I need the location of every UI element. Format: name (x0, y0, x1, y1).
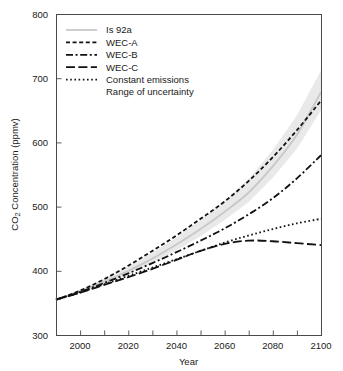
uncertainty-band-group (56, 71, 321, 301)
y-tick-label: 500 (32, 201, 48, 212)
legend-label-constant-emissions: Constant emissions (106, 74, 189, 85)
co2-concentration-chart: 3004005006007008002000202020402060208021… (0, 0, 343, 371)
uncertainty-band (56, 71, 321, 301)
y-tick-label: 600 (32, 137, 48, 148)
y-axis-title: CO2 Concentration (ppmv) (9, 118, 22, 230)
y-tick-label: 800 (32, 9, 48, 20)
chart-svg: 3004005006007008002000202020402060208021… (0, 0, 343, 371)
series-line-wec-c (56, 240, 321, 299)
legend-label-wec-a: WEC-A (106, 37, 138, 48)
x-axis-title: Year (179, 356, 198, 367)
legend: Is 92aWEC-AWEC-BWEC-CConstant emissionsR… (66, 24, 194, 97)
x-tick-label: 2060 (214, 340, 235, 351)
legend-label-is-92a: Is 92a (106, 24, 133, 35)
series-line-is-92a (56, 92, 321, 299)
y-tick-label: 400 (32, 265, 48, 276)
series-line-wec-a (56, 101, 321, 300)
legend-label-wec-c: WEC-C (106, 62, 138, 73)
x-tick-label: 2100 (310, 340, 331, 351)
legend-label-range-of-uncertainty: Range of uncertainty (106, 86, 194, 97)
axis-labels-group: 3004005006007008002000202020402060208021… (32, 9, 331, 352)
x-tick-label: 2020 (118, 340, 139, 351)
y-tick-label: 700 (32, 73, 48, 84)
y-tick-label: 300 (32, 330, 48, 341)
series-group (56, 92, 321, 299)
x-tick-label: 2000 (70, 340, 91, 351)
legend-label-wec-b: WEC-B (106, 49, 138, 60)
x-tick-label: 2040 (166, 340, 187, 351)
x-tick-label: 2080 (262, 340, 283, 351)
